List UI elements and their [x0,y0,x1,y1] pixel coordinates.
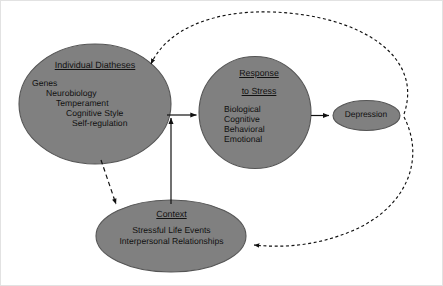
node-context[interactable] [96,200,246,272]
node-response-to-stress[interactable] [199,57,311,169]
node-individual-diatheses[interactable] [19,44,171,164]
node-depression[interactable] [333,101,400,131]
diagram-canvas: Individual Diatheses Genes Neurobiology … [0,0,443,286]
diagram-graphics [0,0,443,286]
